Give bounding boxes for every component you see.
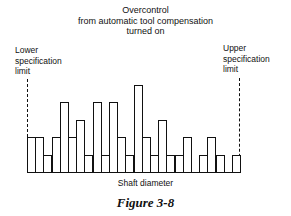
baseline bbox=[27, 172, 241, 173]
histogram-bar bbox=[216, 155, 225, 174]
histogram-bar bbox=[232, 155, 241, 174]
x-axis-label: Shaft diameter bbox=[0, 178, 291, 188]
histogram-bar bbox=[183, 137, 192, 173]
histogram bbox=[27, 0, 241, 173]
figure-caption: Figure 3-8 bbox=[0, 195, 291, 211]
